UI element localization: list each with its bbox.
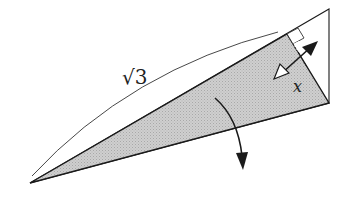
label-x: x [293,77,302,96]
label-sqrt3: √3 [122,65,147,89]
arrowhead-down-icon [236,152,248,170]
diagram-canvas: √3 x [0,0,356,219]
fold-diagram: √3 x [0,0,356,219]
shaded-triangle [30,34,329,183]
